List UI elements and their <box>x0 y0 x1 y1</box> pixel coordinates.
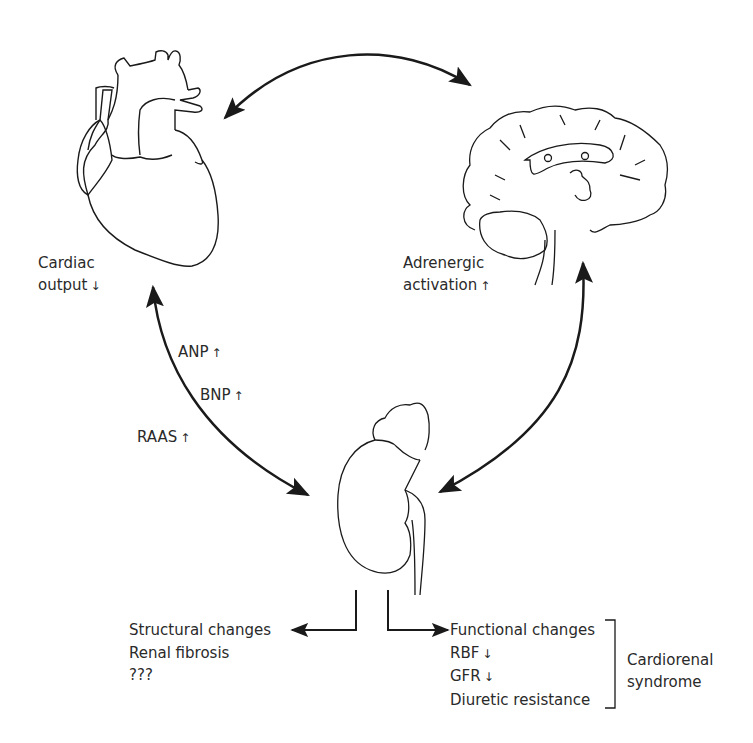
adrenergic-activation-label: Adrenergic activation↑ <box>403 252 490 297</box>
heart-brain-arrow <box>225 55 470 118</box>
down-arrow-icon: ↓ <box>90 275 100 297</box>
cardiorenal-syndrome-label: Cardiorenal syndrome <box>627 649 713 693</box>
up-arrow-icon: ↑ <box>212 342 222 364</box>
brain-kidney-arrow <box>440 263 584 492</box>
structural-changes-list: Structural changes Renal fibrosis ??? <box>129 619 271 687</box>
up-arrow-icon: ↑ <box>234 385 244 407</box>
down-arrow-icon: ↓ <box>484 666 494 689</box>
down-arrow-icon: ↓ <box>482 643 492 666</box>
cardiac-output-label: Cardiac output↓ <box>38 252 101 297</box>
functional-arrow <box>388 590 448 630</box>
diagram-canvas <box>0 0 753 743</box>
functional-changes-list: Functional changes RBF↓ GFR↓ Diuretic re… <box>450 619 595 711</box>
cycle-arrows <box>153 55 584 495</box>
up-arrow-icon: ↑ <box>480 275 490 297</box>
cardiorenal-bracket <box>605 620 615 708</box>
up-arrow-icon: ↑ <box>180 427 190 449</box>
heart-illustration <box>77 51 218 267</box>
brain-illustration <box>463 106 667 285</box>
kidney-illustration <box>338 403 430 595</box>
bnp-label: BNP↑ <box>200 384 244 407</box>
outcome-arrows <box>292 590 448 630</box>
anp-label: ANP↑ <box>178 341 222 364</box>
raas-label: RAAS↑ <box>137 426 190 449</box>
structural-arrow <box>292 590 356 630</box>
